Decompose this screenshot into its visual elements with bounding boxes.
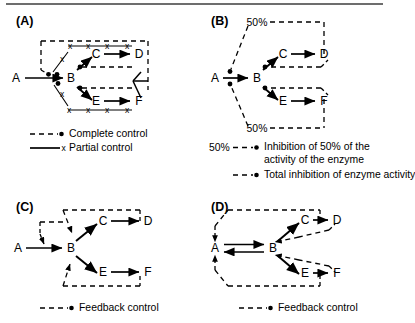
panel-a-dot-f-feedback	[78, 86, 83, 91]
panel-a-legend-complete-label: Complete control	[69, 128, 148, 141]
panel-b-node-d: D	[320, 47, 329, 61]
panel-a: (A) A B	[0, 0, 195, 170]
panel-a-node-e: E	[92, 94, 100, 108]
panel-a-x-mark-1: x	[60, 54, 65, 64]
panel-a-legend-x-partial: x	[61, 143, 66, 153]
panel-b-node-f: F	[320, 94, 327, 108]
panel-b-percent-bottom: 50%	[247, 123, 268, 134]
panel-b-node-a: A	[211, 71, 219, 85]
panel-a-node-c: C	[92, 47, 101, 61]
panel-b-top-dashed-diag	[231, 26, 248, 69]
panel-b-dot-d-feedback	[263, 65, 268, 70]
panel-a-dot-outer-left	[46, 72, 51, 77]
panel-a-legend-dot-complete	[59, 132, 64, 137]
panel-b-legend-inhibition-label: Inhibition of 50% of the activity of the…	[264, 141, 386, 166]
panel-a-outer-left-dashed-tail	[41, 70, 47, 74]
panel-b-legend-dot-2	[254, 173, 259, 178]
panel-c: (C) A B	[0, 190, 195, 323]
panel-d-dashed-bottom-left-diag	[215, 270, 228, 286]
panel-a-legend-partial-label: Partial control	[69, 142, 133, 155]
panel-c-arrow-b-to-e	[76, 256, 97, 273]
panel-a-node-b: B	[67, 71, 75, 85]
panel-c-node-a: A	[14, 241, 22, 255]
panel-b-legend-dot-1	[254, 145, 259, 150]
panel-d-legend-dot	[268, 306, 273, 311]
panel-c-node-b: B	[67, 241, 75, 255]
panel-d-node-e: E	[301, 266, 309, 280]
panel-b-dot-bottom	[228, 82, 233, 87]
panel-a-dot-partial-upper	[55, 72, 60, 77]
panel-d-node-c: C	[301, 213, 310, 227]
panel-a-dot-d-feedback	[78, 65, 83, 70]
panel-a-node-a: A	[12, 71, 20, 85]
panel-a-join-d	[133, 72, 141, 81]
panel-c-small-dashed-diag	[40, 234, 44, 244]
panel-b-dot-f-feedback	[263, 86, 268, 91]
panel-b-legend-total-label: Total inhibition of enzyme activity	[264, 169, 415, 182]
panel-b-legend-percent: 50%	[209, 142, 230, 153]
panel-b-feedback-d-stub	[321, 60, 328, 67]
panel-d-dashed-top-left-diag	[215, 210, 228, 226]
panel-c-legend-feedback-label: Feedback control	[79, 302, 159, 315]
panel-b: (B) 50% 50% A B	[195, 0, 389, 185]
panel-a-dot-partial-lower	[56, 81, 61, 86]
panel-d: (D)	[195, 190, 389, 323]
panel-d-dashed-d-return-horiz	[299, 230, 329, 237]
panel-c-node-c: C	[99, 214, 108, 228]
panel-b-node-e: E	[279, 94, 287, 108]
panel-c-node-d: D	[144, 214, 153, 228]
panel-c-upper-dashed-diag	[63, 210, 72, 233]
panel-b-node-b: B	[253, 71, 261, 85]
panel-c-node-f: F	[144, 265, 151, 279]
panel-c-lower-dashed-diag	[63, 264, 70, 286]
panel-b-node-c: C	[279, 47, 288, 61]
panel-a-node-f: F	[135, 94, 142, 108]
panel-b-percent-top: 50%	[247, 17, 268, 28]
panel-c-node-e: E	[99, 265, 107, 279]
panel-b-bottom-dashed-diag	[231, 86, 248, 126]
panel-a-node-d: D	[135, 47, 144, 61]
panel-d-node-b: B	[269, 241, 277, 255]
panel-c-legend-dot	[69, 306, 74, 311]
panel-d-node-d: D	[333, 213, 342, 227]
panel-d-node-f: F	[333, 266, 340, 280]
panel-d-node-a: A	[211, 241, 219, 255]
panel-b-dot-top	[228, 69, 233, 74]
panel-d-legend-feedback-label: Feedback control	[278, 302, 358, 315]
panel-a-x-mark-6: x	[60, 89, 65, 99]
panel-c-arrow-b-to-c	[76, 224, 97, 241]
